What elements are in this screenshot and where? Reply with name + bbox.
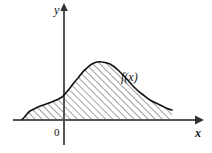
density-curve-figure: y x 0 f(x): [0, 0, 212, 153]
y-axis-label: y: [53, 3, 60, 17]
origin-label: 0: [54, 126, 60, 138]
y-axis-arrowhead-icon: [60, 3, 68, 11]
hatch-fill: [20, 58, 176, 122]
y-axis: [60, 3, 68, 145]
shaded-area-under-curve: [20, 58, 176, 122]
curve-function-label: f(x): [121, 70, 138, 84]
figure-container: y x 0 f(x): [0, 0, 212, 153]
x-axis-label: x: [194, 126, 201, 140]
x-axis-arrowhead-icon: [195, 116, 204, 125]
